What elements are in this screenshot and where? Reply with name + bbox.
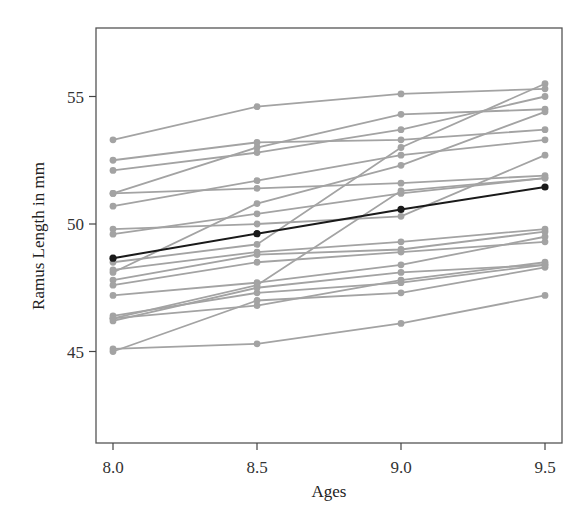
data-point <box>542 175 549 182</box>
data-point <box>110 282 117 289</box>
data-point <box>110 267 117 274</box>
data-point <box>398 187 405 194</box>
data-point <box>110 203 117 210</box>
data-point <box>542 108 549 115</box>
data-point <box>254 210 261 217</box>
data-point <box>254 297 261 304</box>
data-point <box>542 126 549 133</box>
data-point <box>542 136 549 143</box>
data-point <box>110 292 117 299</box>
data-point <box>542 292 549 299</box>
data-point <box>254 177 261 184</box>
x-tick-label: 8.5 <box>246 458 267 477</box>
data-point <box>254 149 261 156</box>
data-point <box>542 226 549 233</box>
data-point <box>398 111 405 118</box>
y-axis: 455055 <box>67 88 96 362</box>
mean-point <box>109 255 116 262</box>
data-point <box>254 185 261 192</box>
data-point <box>254 340 261 347</box>
data-point <box>254 221 261 228</box>
y-tick-label: 55 <box>67 88 84 107</box>
ramus-length-chart: 455055 8.08.59.09.5 Ages Ramus Length in… <box>0 0 584 530</box>
data-point <box>398 152 405 159</box>
data-point <box>110 136 117 143</box>
data-point <box>254 282 261 289</box>
data-point <box>254 200 261 207</box>
mean-point <box>397 206 404 213</box>
data-point <box>398 277 405 284</box>
data-point <box>398 289 405 296</box>
data-point <box>110 315 117 322</box>
data-point <box>398 238 405 245</box>
data-point <box>398 180 405 187</box>
data-point <box>542 93 549 100</box>
data-point <box>110 157 117 164</box>
data-point <box>110 167 117 174</box>
data-point <box>110 348 117 355</box>
x-tick-label: 8.0 <box>102 458 123 477</box>
mean-point <box>253 230 260 237</box>
x-tick-label: 9.5 <box>534 458 555 477</box>
data-point <box>254 103 261 110</box>
x-axis: 8.08.59.09.5 <box>102 443 555 477</box>
data-point <box>398 320 405 327</box>
data-point <box>110 190 117 197</box>
data-point <box>398 91 405 98</box>
y-tick-label: 45 <box>67 343 84 362</box>
data-point <box>398 269 405 276</box>
data-point <box>398 162 405 169</box>
data-point <box>542 152 549 159</box>
data-point <box>398 213 405 220</box>
data-point <box>398 249 405 256</box>
data-point <box>110 231 117 238</box>
y-tick-label: 50 <box>67 215 84 234</box>
y-axis-title: Ramus Length in mm <box>29 162 48 310</box>
data-point <box>542 85 549 92</box>
x-tick-label: 9.0 <box>390 458 411 477</box>
data-point <box>398 261 405 268</box>
data-point <box>398 136 405 143</box>
data-point <box>542 233 549 240</box>
mean-point <box>541 183 548 190</box>
data-point <box>398 144 405 151</box>
data-point <box>254 259 261 266</box>
data-point <box>254 249 261 256</box>
data-point <box>254 241 261 248</box>
x-axis-title: Ages <box>312 482 347 501</box>
data-point <box>542 261 549 268</box>
data-point <box>398 126 405 133</box>
